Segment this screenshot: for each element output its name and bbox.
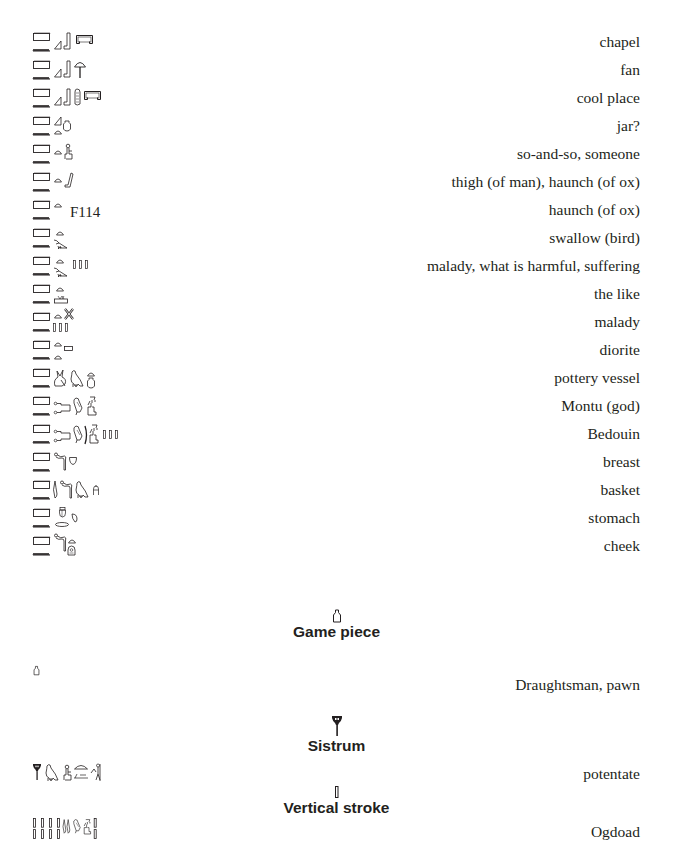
section-title: Vertical stroke [0,799,673,816]
gloss-text: Bedouin [587,425,640,443]
entry-fan: fan [33,56,640,84]
gloss-text: pottery vessel [554,369,640,387]
gloss-text: jar? [617,117,640,135]
hieroglyph-group-ogdoad [33,818,163,846]
gloss-text: basket [600,481,640,499]
hieroglyph-group-potentate [33,760,153,788]
hieroglyph-group-pottery-vessel [33,364,143,392]
gloss-text: breast [603,453,640,471]
gloss-text: cheek [604,537,640,555]
hieroglyph-group-diorite [33,336,143,364]
entry-bedouin: Bedouin [33,420,640,448]
section-heading-sistrum: Sistrum [0,715,673,754]
gloss-text: diorite [600,341,640,359]
sistrum-icon [331,715,343,737]
entry-so-and-so: so-and-so, someone [33,140,640,168]
hieroglyph-group-draughtsman [33,665,53,693]
entry-potentate: potentate [33,760,640,788]
hieroglyph-group-malady-harmful [33,252,143,280]
hieroglyph-group-chapel [33,28,143,56]
hieroglyph-group-thigh [33,168,143,196]
vertical-stroke-icon [334,786,340,799]
entry-thigh: thigh (of man), haunch (of ox) [33,168,640,196]
hieroglyph-group-cheek [33,532,143,560]
entry-jar: jar? [33,112,640,140]
gloss-text: swallow (bird) [549,229,640,247]
gloss-text: stomach [588,509,640,527]
gloss-text: malady, what is harmful, suffering [427,257,640,275]
hieroglyph-group-so-and-so [33,140,143,168]
entry-cheek: cheek [33,532,640,560]
entry-malady: malady [33,308,640,336]
entry-pottery-vessel: pottery vessel [33,364,640,392]
hieroglyph-group-stomach [33,504,143,532]
entry-swallow: swallow (bird) [33,224,640,252]
game-piece-icon [332,609,342,623]
gloss-text: potentate [583,765,640,783]
entry-draughtsman: Draughtsman, pawn [33,663,640,693]
gloss-text: so-and-so, someone [517,145,640,163]
section-heading-vertical-stroke: Vertical stroke [0,786,673,816]
gloss-text: Ogdoad [591,823,640,841]
hieroglyph-group-malady [33,308,143,336]
sign-code: F114 [70,204,100,221]
entry-chapel: chapel [33,28,640,56]
entry-haunch: F114 haunch (of ox) [33,196,640,224]
entry-malady-harmful: malady, what is harmful, suffering [33,252,640,280]
entry-basket: basket [33,476,640,504]
entry-ogdoad: Ogdoad [33,818,640,846]
hieroglyph-group-jar [33,112,143,140]
hieroglyph-group-swallow [33,224,143,252]
gloss-text: cool place [577,89,640,107]
entry-stomach: stomach [33,504,640,532]
entry-breast: breast [33,448,640,476]
section-title: Game piece [0,623,673,640]
hieroglyph-group-montu [33,392,143,420]
hieroglyph-group-basket [33,476,143,504]
gloss-text: the like [594,285,640,303]
entry-cool-place: cool place [33,84,640,112]
gloss-text: chapel [600,33,640,51]
gloss-text: malady [594,313,640,331]
dictionary-page: chapel fan cool place jar? so-and-so, so… [0,0,673,847]
entry-montu: Montu (god) [33,392,640,420]
gloss-text: Montu (god) [561,397,640,415]
hieroglyph-group-the-like [33,280,143,308]
hieroglyph-group-haunch [33,196,73,224]
hieroglyph-group-breast [33,448,143,476]
gloss-text: thigh (of man), haunch (of ox) [451,173,640,191]
hieroglyph-group-fan [33,56,143,84]
gloss-text: haunch (of ox) [549,201,640,219]
gloss-text: Draughtsman, pawn [515,676,640,694]
gloss-text: fan [620,61,640,79]
hieroglyph-group-cool-place [33,84,143,112]
section-heading-game-piece: Game piece [0,609,673,640]
hieroglyph-group-bedouin [33,420,163,448]
entry-diorite: diorite [33,336,640,364]
entry-the-like: the like [33,280,640,308]
section-title: Sistrum [0,737,673,754]
